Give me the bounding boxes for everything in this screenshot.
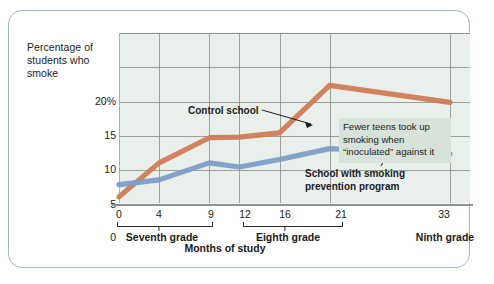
x-tick-21: 21 <box>335 208 347 220</box>
bracket-label-ninth-grade: Ninth grade <box>416 231 474 243</box>
x-tick-16: 16 <box>279 208 291 220</box>
annotation-prevention-program: School with smoking prevention program <box>305 168 405 193</box>
x-tick-33: 33 <box>438 208 450 220</box>
y-tick-10: 10 <box>76 163 116 175</box>
annotation-prevention-program-line2: prevention program <box>305 181 399 192</box>
gridline-x-12 <box>239 33 240 203</box>
gridline-y-20 <box>119 67 470 68</box>
gridline-x-4 <box>159 33 160 203</box>
annotation-prevention-program-line1: School with smoking <box>305 168 405 179</box>
gridline-y-15 <box>119 102 470 103</box>
x-tick-12: 12 <box>239 208 251 220</box>
plot-top-border <box>119 33 470 34</box>
gridline-x-0 <box>119 33 120 203</box>
gridline-x-16 <box>280 33 281 203</box>
x-tick-4: 4 <box>156 208 162 220</box>
gridline-y-5 <box>119 170 470 171</box>
x-tick-0: 0 <box>116 208 122 220</box>
x-axis-title: Months of study <box>184 242 265 254</box>
figure-root: Percentage of students who smoke 20% 15 … <box>0 0 494 284</box>
bracket-seventh-grade <box>117 222 213 227</box>
annotation-control-school: Control school <box>188 105 259 118</box>
x-axis-line <box>112 204 473 206</box>
x-tick-9: 9 <box>208 208 214 220</box>
y-tick-labels: 20% 15 10 5 0 <box>74 33 116 203</box>
y-tick-15: 15 <box>76 129 116 141</box>
annotation-callout: Fewer teens took up smoking when “inocul… <box>339 118 451 163</box>
y-tick-20: 20% <box>76 95 116 107</box>
bracket-eighth-grade <box>243 222 343 227</box>
gridline-x-9 <box>209 33 210 203</box>
